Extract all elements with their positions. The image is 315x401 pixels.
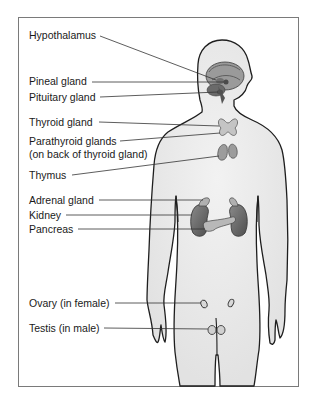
label-pineal-gland: Pineal gland	[29, 75, 87, 87]
label-thyroid-gland: Thyroid gland	[29, 116, 93, 128]
label-adrenal-gland: Adrenal gland	[29, 194, 94, 206]
label-pancreas: Pancreas	[29, 223, 73, 235]
pineal-organ	[224, 80, 229, 85]
label-parathyroid-note: (on back of thyroid gland)	[29, 148, 147, 160]
label-testis: Testis (in male)	[29, 322, 100, 334]
kidney-left-organ	[191, 205, 209, 237]
label-parathyroid-glands: Parathyroid glands	[29, 135, 117, 147]
label-hypothalamus: Hypothalamus	[29, 29, 96, 41]
hypothalamus-organ	[216, 78, 224, 84]
label-kidney: Kidney	[29, 209, 61, 221]
label-thymus: Thymus	[29, 169, 66, 181]
label-pituitary-gland: Pituitary gland	[29, 91, 96, 103]
label-ovary: Ovary (in female)	[29, 297, 110, 309]
